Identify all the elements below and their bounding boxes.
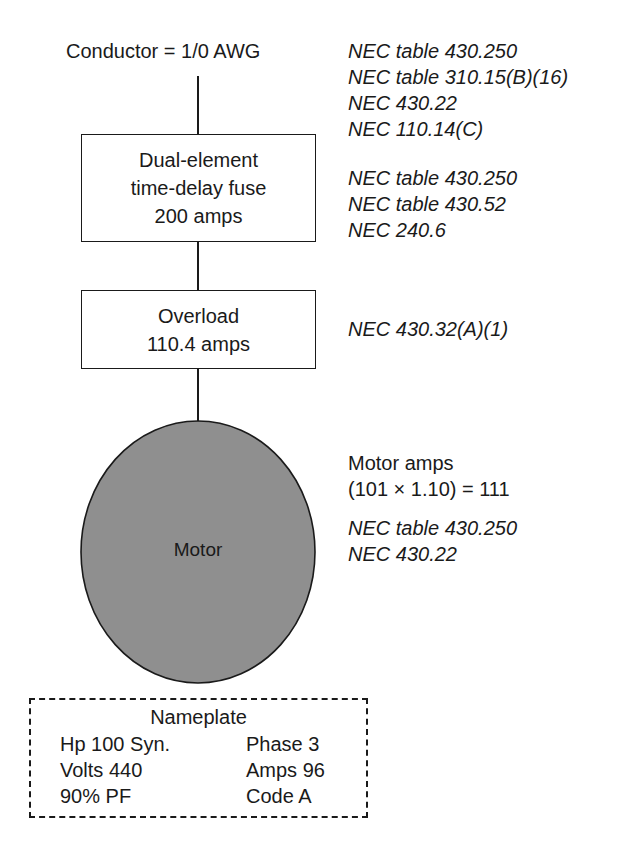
motor-amps-calculation: Motor amps (101 × 1.10) = 111	[348, 450, 510, 502]
nameplate-phase: Phase 3	[246, 731, 319, 757]
nameplate-code: Code A	[246, 783, 312, 809]
nameplate-amps: Amps 96	[246, 757, 325, 783]
nameplate-pf: 90% PF	[60, 783, 131, 809]
nec-reference: NEC table 430.250	[348, 515, 517, 541]
motor-amps-formula: (101 × 1.10) = 111	[348, 476, 510, 502]
nameplate-title: Nameplate	[31, 704, 366, 730]
nameplate-box: Nameplate Hp 100 Syn. Volts 440 90% PF P…	[29, 698, 368, 818]
motor-amps-label: Motor amps	[348, 450, 510, 476]
motor-label: Motor	[138, 537, 258, 563]
nec-reference: NEC 430.22	[348, 541, 517, 567]
nameplate-volts: Volts 440	[60, 757, 142, 783]
motor-nec-references: NEC table 430.250 NEC 430.22	[348, 515, 517, 567]
nameplate-hp: Hp 100 Syn.	[60, 731, 170, 757]
